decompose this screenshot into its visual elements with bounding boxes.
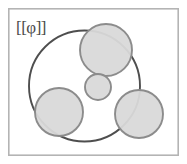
denotation-label: [[φ]] [16,19,46,36]
disk-left [35,88,83,136]
disk-top [80,24,132,76]
figure-container: [[φ]] [0,0,187,164]
disk-right [115,90,163,138]
disk-center [85,74,111,100]
